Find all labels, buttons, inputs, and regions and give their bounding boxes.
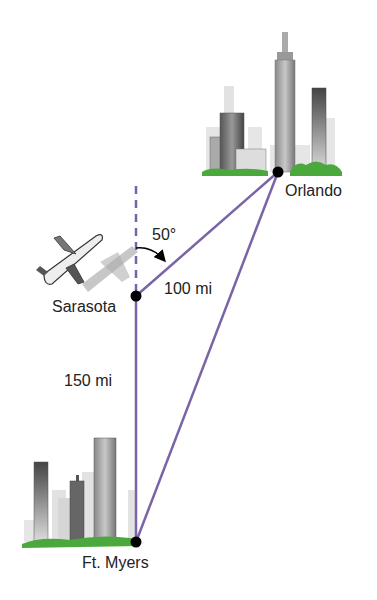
ftmyers-skyline-icon bbox=[22, 438, 140, 548]
point-sarasota bbox=[131, 291, 142, 302]
point-ftmyers bbox=[131, 537, 142, 548]
point-orlando bbox=[273, 167, 284, 178]
label-angle: 50° bbox=[152, 226, 176, 244]
label-distance-sarasota-ftmyers: 150 mi bbox=[64, 372, 112, 390]
label-orlando: Orlando bbox=[285, 182, 342, 200]
airplane-icon bbox=[36, 235, 138, 292]
angle-arc-arrow bbox=[136, 248, 164, 260]
label-distance-sarasota-orlando: 100 mi bbox=[164, 280, 212, 298]
orlando-skyline-icon bbox=[202, 32, 342, 176]
label-ftmyers: Ft. Myers bbox=[82, 554, 149, 572]
label-sarasota: Sarasota bbox=[52, 298, 116, 316]
